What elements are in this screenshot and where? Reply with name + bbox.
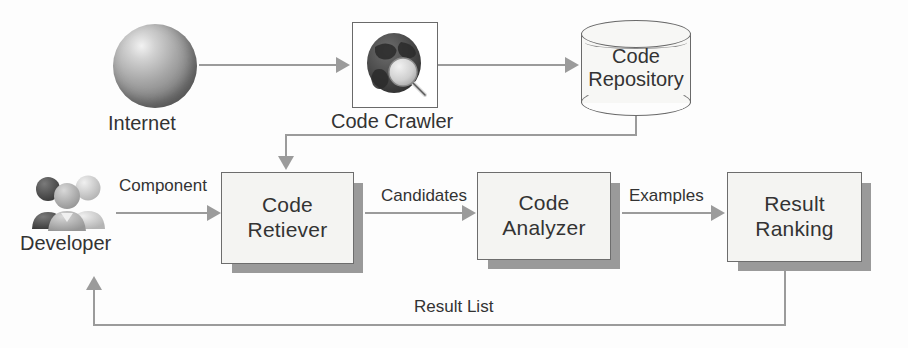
result-ranking-box[interactable]: Result Ranking: [727, 172, 862, 262]
edge-internet-to-crawler: [199, 64, 338, 66]
arrowhead-result-list-to-developer: [86, 276, 102, 290]
edge-developer-to-retriever: [116, 212, 210, 214]
edge-retriever-to-analyzer: [365, 212, 465, 214]
code-retriever-box[interactable]: Code Retiever: [221, 172, 354, 264]
arrowhead-repository-to-retriever: [278, 156, 294, 170]
edge-repository-to-retriever: [285, 134, 287, 158]
arrowhead-retriever-to-analyzer: [462, 205, 476, 221]
edge-repository-across: [285, 134, 637, 136]
edge-analyzer-to-ranking: [622, 212, 714, 214]
arrowhead-analyzer-to-ranking: [711, 205, 725, 221]
code-repository-label: Code Repository: [581, 45, 691, 91]
database-cylinder-icon: Code Repository: [581, 20, 691, 116]
code-crawler-label: Code Crawler: [331, 110, 453, 133]
edge-label-result-list: Result List: [414, 297, 493, 317]
globe-sphere-icon: [113, 24, 197, 108]
edge-ranking-down: [784, 268, 786, 326]
architecture-diagram: Internet: [0, 0, 908, 348]
arrowhead-crawler-to-repository: [565, 57, 579, 73]
edge-label-component: Component: [119, 176, 207, 196]
edge-repository-down: [635, 116, 637, 136]
developer-label: Developer: [20, 232, 111, 255]
edge-label-examples: Examples: [629, 186, 704, 206]
result-ranking-label: Result Ranking: [755, 192, 833, 242]
edge-result-list-across: [93, 324, 786, 326]
cylinder-bottom: [581, 88, 691, 116]
code-analyzer-label: Code Analyzer: [502, 191, 585, 241]
edge-label-candidates: Candidates: [381, 186, 467, 206]
arrowhead-developer-to-retriever: [207, 205, 221, 221]
arrowhead-internet-to-crawler: [336, 57, 350, 73]
code-retriever-label: Code Retiever: [248, 193, 328, 243]
edge-result-list-up: [93, 288, 95, 326]
people-group-icon: [28, 172, 114, 232]
edge-crawler-to-repository: [437, 64, 569, 66]
globe-magnifier-icon: [353, 23, 437, 107]
code-analyzer-box[interactable]: Code Analyzer: [477, 172, 611, 260]
internet-label: Internet: [108, 112, 176, 135]
code-crawler-iconbox: [352, 22, 438, 108]
